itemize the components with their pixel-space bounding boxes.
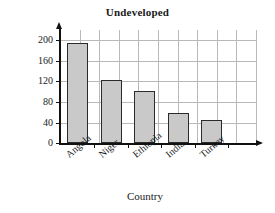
y-tick-label: 160 bbox=[27, 56, 53, 66]
gridline-vertical bbox=[236, 30, 237, 143]
bar bbox=[101, 80, 122, 143]
y-tick-label: 0 bbox=[27, 138, 53, 148]
y-tick-label: 200 bbox=[27, 35, 53, 45]
gridline-vertical bbox=[158, 30, 159, 143]
y-tick-label: 80 bbox=[27, 97, 53, 107]
y-axis-arrow-icon bbox=[56, 22, 62, 29]
y-tick-mark bbox=[56, 102, 60, 103]
y-tick-mark bbox=[56, 143, 60, 144]
bar-chart: Undeveloped IMR per 1000 births 04080120… bbox=[0, 0, 275, 213]
y-tick-label: 120 bbox=[27, 76, 53, 86]
x-tick-mark bbox=[228, 144, 229, 148]
x-axis-arrow-icon bbox=[256, 140, 263, 146]
y-tick-mark bbox=[56, 123, 60, 124]
x-tick-mark bbox=[94, 144, 95, 148]
x-tick-mark bbox=[161, 144, 162, 148]
bar bbox=[67, 43, 88, 143]
gridline-vertical bbox=[197, 30, 198, 143]
plot-area bbox=[60, 30, 256, 143]
y-tick-mark bbox=[56, 40, 60, 41]
y-tick-mark bbox=[56, 81, 60, 82]
y-axis-line bbox=[59, 28, 61, 145]
x-tick-mark bbox=[128, 144, 129, 148]
chart-title: Undeveloped bbox=[0, 6, 275, 18]
x-axis-label: Country bbox=[60, 190, 230, 202]
gridline-vertical bbox=[256, 30, 257, 143]
x-tick-mark bbox=[195, 144, 196, 148]
y-tick-mark bbox=[56, 61, 60, 62]
y-tick-label: 40 bbox=[27, 118, 53, 128]
